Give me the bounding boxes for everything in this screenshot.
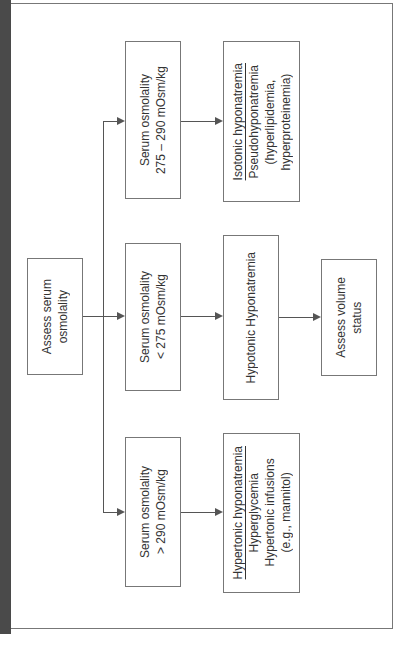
assess-volume-status-box: Assess volume status bbox=[321, 259, 377, 376]
hypertonic-title: Hypertonic hyponatremia bbox=[230, 446, 246, 579]
root-line-1: Assess serum bbox=[39, 279, 55, 354]
arrow-icon bbox=[215, 508, 223, 516]
condition-line: Serum osmolality bbox=[137, 466, 153, 558]
arrow-icon bbox=[215, 312, 223, 320]
connector-hypertonic bbox=[181, 512, 215, 513]
hypotonic-hyponatremia-box: Hypotonic Hyponatremia bbox=[223, 235, 279, 400]
next-line: Assess volume bbox=[333, 277, 349, 358]
result-line: hyperproteinemia) bbox=[278, 63, 294, 180]
connector-volume bbox=[279, 317, 313, 318]
condition-line: < 275 mOsm/kg bbox=[153, 271, 169, 363]
result-line: Hyperglycemia bbox=[246, 446, 262, 579]
hypertonic-hyponatremia-box: Hypertonic hyponatremia Hyperglycemia Hy… bbox=[223, 433, 300, 593]
left-dark-strip bbox=[0, 0, 11, 634]
result-line: Hypertonic infusions bbox=[262, 446, 278, 579]
condition-line: 275 – 290 mOsm/kg bbox=[153, 66, 169, 174]
connector-isotonic bbox=[181, 121, 215, 122]
trunk-line bbox=[103, 121, 104, 513]
connector-root-trunk bbox=[83, 316, 103, 317]
arrow-icon bbox=[117, 117, 125, 125]
connector-hypotonic bbox=[181, 316, 215, 317]
condition-lt-275-box: Serum osmolality < 275 mOsm/kg bbox=[125, 243, 181, 391]
connector-trunk-isotonic bbox=[103, 121, 117, 122]
connector-trunk-hypertonic bbox=[103, 512, 117, 513]
condition-275-290-box: Serum osmolality 275 – 290 mOsm/kg bbox=[125, 41, 181, 199]
isotonic-hyponatremia-box: Isotonic hyponatremia Pseudohyponatremia… bbox=[223, 41, 300, 202]
arrow-icon bbox=[117, 312, 125, 320]
connector-trunk-hypotonic bbox=[104, 316, 117, 317]
condition-line: Serum osmolality bbox=[137, 66, 153, 174]
condition-gt-290-box: Serum osmolality > 290 mOsm/kg bbox=[125, 437, 181, 587]
condition-line: Serum osmolality bbox=[137, 271, 153, 363]
arrow-icon bbox=[117, 508, 125, 516]
result-line: Hypotonic Hyponatremia bbox=[243, 252, 259, 383]
isotonic-title: Isotonic hyponatremia bbox=[230, 63, 246, 180]
arrow-icon bbox=[215, 117, 223, 125]
assess-serum-osmolality-box: Assess serum osmolality bbox=[27, 258, 83, 375]
root-line-2: osmolality bbox=[55, 279, 71, 354]
next-line: status bbox=[349, 277, 365, 358]
arrow-icon bbox=[313, 313, 321, 321]
result-line: Pseudohyponatremia bbox=[246, 63, 262, 180]
result-line: (hyperlipidemia, bbox=[262, 63, 278, 180]
result-line: (e.g., mannitol) bbox=[278, 446, 294, 579]
condition-line: > 290 mOsm/kg bbox=[153, 466, 169, 558]
